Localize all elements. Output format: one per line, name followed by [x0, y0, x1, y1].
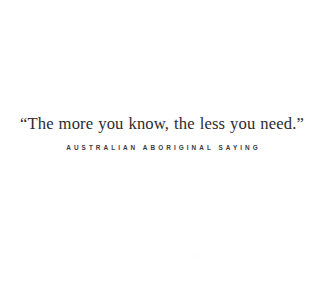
quote-card: “The more you know, the less you need.” …: [0, 0, 324, 294]
quote-block: “The more you know, the less you need.” …: [0, 113, 324, 152]
quote-text: “The more you know, the less you need.”: [10, 113, 314, 134]
faint-artifact-mark: [191, 254, 201, 258]
quote-attribution: AUSTRALIAN ABORIGINAL SAYING: [10, 144, 314, 152]
